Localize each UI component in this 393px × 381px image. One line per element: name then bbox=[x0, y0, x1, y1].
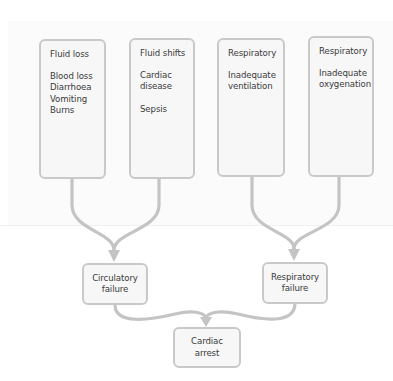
arrowhead-circulatory bbox=[108, 250, 120, 262]
outcome-label: Circulatory failure bbox=[92, 273, 138, 295]
cause-box-respiratory-oxygenation: Respiratory Inadequate oxygenation bbox=[308, 36, 374, 177]
cause-title: Respiratory bbox=[228, 48, 277, 59]
cause-item: oxygenation bbox=[319, 79, 366, 90]
cause-item: Vomiting bbox=[50, 94, 98, 105]
cause-item: ventilation bbox=[228, 81, 277, 92]
outcome-box-cardiac-arrest: Cardiac arrest bbox=[173, 327, 241, 368]
cause-item: Sepsis bbox=[140, 104, 187, 115]
cause-box-fluid-shifts: Fluid shifts Cardiac disease Sepsis bbox=[129, 38, 195, 179]
cause-item: Inadequate bbox=[228, 70, 277, 81]
connector-ventilation bbox=[252, 176, 294, 249]
connector-fluid-loss bbox=[72, 178, 114, 250]
cause-item: Blood loss bbox=[50, 71, 98, 82]
cause-box-fluid-loss: Fluid loss Blood loss Diarrhoea Vomiting… bbox=[39, 39, 106, 179]
cause-title: Respiratory bbox=[319, 46, 366, 57]
arrowhead-cardiac-arrest bbox=[200, 317, 212, 327]
connector-oxygenation bbox=[294, 176, 339, 249]
cause-title: Fluid loss bbox=[50, 49, 98, 60]
outcome-label: Respiratory failure bbox=[271, 272, 319, 294]
connector-fluid-shifts bbox=[114, 178, 159, 250]
cause-item: Inadequate bbox=[319, 68, 366, 79]
cause-item: disease bbox=[140, 81, 187, 92]
cause-item: Cardiac bbox=[140, 70, 187, 81]
cause-item: Diarrhoea bbox=[50, 82, 98, 93]
outcome-box-respiratory-failure: Respiratory failure bbox=[262, 262, 328, 304]
cause-item: Burns bbox=[50, 105, 98, 116]
connector-circulatory-to-arrest bbox=[115, 305, 206, 319]
cause-box-respiratory-ventilation: Respiratory Inadequate ventilation bbox=[217, 38, 285, 177]
arrowhead-respiratory bbox=[288, 249, 300, 261]
connector-respiratory-to-arrest bbox=[206, 303, 295, 319]
outcome-box-circulatory-failure: Circulatory failure bbox=[82, 263, 148, 305]
outcome-label: Cardiac arrest bbox=[191, 336, 223, 358]
cause-title: Fluid shifts bbox=[140, 48, 187, 59]
